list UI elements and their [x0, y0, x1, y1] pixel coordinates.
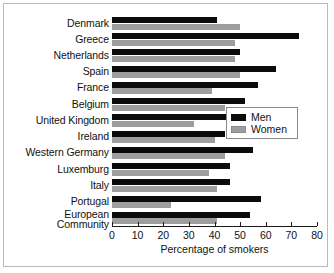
bar-france-women [112, 88, 212, 94]
y-label-ireland: Ireland [4, 131, 109, 142]
bar-portugal-men [112, 196, 261, 202]
x-tick-30 [189, 222, 190, 226]
legend-swatch-women-icon [231, 126, 246, 133]
bar-group [112, 145, 317, 161]
x-tick-50 [240, 222, 241, 226]
bar-ireland-men [112, 131, 225, 137]
bar-group [112, 15, 317, 31]
bar-group [112, 194, 317, 210]
bar-denmark-men [112, 17, 217, 23]
bar-spain-men [112, 66, 276, 72]
x-axis-tick-labels: 01020304050607080 [112, 229, 317, 243]
y-label-italy: Italy [4, 180, 109, 191]
legend-entry-women: Women [231, 123, 293, 135]
y-label-belgium: Belgium [4, 99, 109, 110]
y-label-denmark: Denmark [4, 18, 109, 29]
x-tick-70 [291, 222, 292, 226]
x-axis-title: Percentage of smokers [112, 243, 317, 255]
y-label-portugal: Portugal [4, 196, 109, 207]
bar-western-germany-men [112, 147, 253, 153]
bar-belgium-men [112, 98, 245, 104]
y-label-luxemburg: Luxemburg [4, 164, 109, 175]
x-tick-label-20: 20 [157, 229, 169, 241]
x-tick-40 [215, 222, 216, 226]
x-tick-label-0: 0 [109, 229, 115, 241]
bar-united-kingdom-women [112, 121, 194, 127]
bar-group [112, 47, 317, 63]
bar-portugal-women [112, 202, 171, 208]
bar-group [112, 31, 317, 47]
x-tick-label-50: 50 [234, 229, 246, 241]
legend-entry-men: Men [231, 111, 293, 123]
bar-netherlands-women [112, 56, 235, 62]
bar-ireland-women [112, 137, 215, 143]
x-tick-80 [317, 222, 318, 226]
bar-netherlands-men [112, 49, 240, 55]
y-label-european-community: EuropeanCommunity [4, 209, 109, 230]
y-axis-category-labels: DenmarkGreeceNetherlandsSpainFranceBelgi… [4, 15, 109, 226]
legend-label-men: Men [251, 111, 271, 123]
x-tick-10 [138, 222, 139, 226]
y-label-france: France [4, 82, 109, 93]
bar-france-men [112, 82, 258, 88]
chart-legend: Men Women [226, 107, 298, 139]
x-tick-60 [266, 222, 267, 226]
x-tick-label-80: 80 [311, 229, 323, 241]
bar-european-community-women [112, 218, 217, 224]
x-tick-20 [163, 222, 164, 226]
bar-spain-women [112, 72, 240, 78]
x-axis-line [112, 226, 317, 227]
bar-denmark-women [112, 24, 240, 30]
bar-united-kingdom-men [112, 114, 230, 120]
bar-group [112, 161, 317, 177]
bar-group [112, 80, 317, 96]
bar-italy-women [112, 186, 217, 192]
y-label-spain: Spain [4, 66, 109, 77]
chart-plot-wrapper: DenmarkGreeceNetherlandsSpainFranceBelgi… [4, 4, 329, 268]
legend-label-women: Women [251, 123, 287, 135]
x-tick-label-70: 70 [286, 229, 298, 241]
bar-european-community-men [112, 212, 250, 218]
y-label-greece: Greece [4, 34, 109, 45]
bar-italy-men [112, 179, 230, 185]
bar-western-germany-women [112, 153, 225, 159]
bar-greece-men [112, 33, 299, 39]
bar-group [112, 64, 317, 80]
x-tick-label-60: 60 [260, 229, 272, 241]
y-label-western-germany: Western Germany [4, 147, 109, 158]
bar-luxemburg-men [112, 163, 230, 169]
x-tick-0 [112, 222, 113, 226]
legend-swatch-men-icon [231, 114, 246, 121]
bar-luxemburg-women [112, 170, 209, 176]
x-tick-label-30: 30 [183, 229, 195, 241]
x-tick-label-40: 40 [209, 229, 221, 241]
bar-group [112, 177, 317, 193]
x-tick-label-10: 10 [132, 229, 144, 241]
chart-container: DenmarkGreeceNetherlandsSpainFranceBelgi… [3, 3, 328, 267]
y-label-netherlands: Netherlands [4, 50, 109, 61]
bar-greece-women [112, 40, 235, 46]
bar-belgium-women [112, 105, 225, 111]
y-label-united-kingdom: United Kingdom [4, 115, 109, 126]
